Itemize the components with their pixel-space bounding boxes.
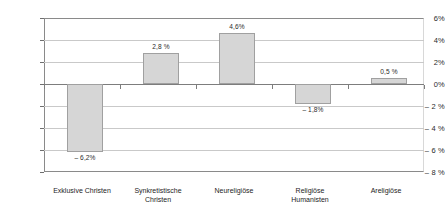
bar-value-label: 0,5 %	[359, 68, 419, 75]
x-axis-category-label: Synkretistische Christen	[124, 186, 192, 204]
bar-areligioese	[371, 78, 407, 84]
bar-exklusive-christen	[67, 84, 103, 152]
x-axis-category-label: Exklusive Christen	[48, 186, 116, 195]
x-axis-tick-mark	[424, 85, 425, 89]
bar-chart: 6% 4% 2% 0% – 2 % – 4 % – 6 % – 8 % – 6,…	[0, 0, 445, 221]
x-axis-category-label: Religiöse Humanisten	[276, 186, 344, 204]
y-axis-tick-mark	[40, 172, 44, 173]
bar-value-label: 4,6%	[207, 23, 267, 30]
bar-synkretistische-christen	[143, 53, 179, 84]
bar-value-label: – 1,8%	[283, 106, 343, 113]
x-axis-tick-mark	[196, 85, 197, 89]
bar-neureligioese	[219, 33, 255, 84]
x-axis-tick-mark	[44, 85, 45, 89]
x-axis-tick-mark	[120, 85, 121, 89]
x-axis-category-label: Neureligiöse	[200, 186, 268, 195]
bar-value-label: – 6,2%	[55, 154, 115, 161]
x-axis-tick-mark	[272, 85, 273, 89]
bar-value-label: 2,8 %	[131, 43, 191, 50]
x-axis-tick-mark	[348, 85, 349, 89]
x-axis-category-label: Areligiöse	[352, 186, 420, 195]
bar-religioese-humanisten	[295, 84, 331, 104]
